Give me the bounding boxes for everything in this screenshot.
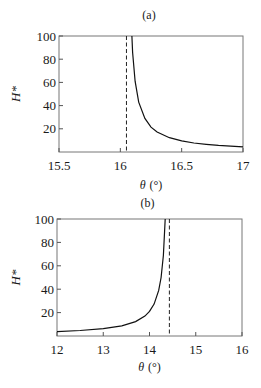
x-axis-label-symbol: θ — [140, 178, 146, 192]
x-axis-label-unit: (°) — [150, 178, 163, 192]
y-tick-label: 20 — [43, 121, 56, 136]
x-tick-label: 12 — [51, 342, 64, 357]
x-tick-label: 17 — [237, 158, 251, 173]
chart-panel-a: (a)2040608010015.51616.517H*θ(°) — [8, 8, 250, 192]
x-tick-label: 16 — [236, 342, 250, 357]
y-axis-label: H* — [8, 86, 23, 103]
y-tick-label: 60 — [41, 258, 54, 273]
panel-label: (a) — [142, 8, 155, 22]
y-tick-label: 40 — [41, 282, 54, 297]
x-tick-label: 14 — [143, 342, 157, 357]
chart-panel-b: (b)204060801001213141516H*θ(°) — [8, 196, 249, 374]
x-tick-label: 13 — [97, 342, 110, 357]
x-tick-label: 15 — [189, 342, 202, 357]
x-axis-label: θ(°) — [140, 178, 163, 192]
plot-frame — [59, 36, 243, 152]
y-tick-label: 100 — [37, 29, 57, 44]
x-tick-label: 15.5 — [48, 158, 71, 173]
y-axis-label: H* — [8, 269, 23, 286]
series-line-h-star — [57, 219, 165, 332]
y-tick-label: 40 — [43, 98, 56, 113]
plot-frame — [57, 219, 242, 336]
panel-label: (b) — [141, 196, 155, 210]
series-line-h-star — [132, 36, 243, 147]
x-axis-label-symbol: θ — [138, 360, 144, 374]
x-axis-label-unit: (°) — [148, 360, 161, 374]
y-tick-label: 100 — [35, 212, 55, 227]
x-axis-label: θ(°) — [138, 360, 161, 374]
y-tick-label: 60 — [43, 75, 56, 90]
y-tick-label: 80 — [43, 52, 56, 67]
y-tick-label: 20 — [41, 305, 54, 320]
x-tick-label: 16.5 — [170, 158, 193, 173]
y-tick-label: 80 — [41, 235, 54, 250]
x-tick-label: 16 — [114, 158, 128, 173]
chart-figure: (a)2040608010015.51616.517H*θ(°)(b)20406… — [0, 0, 261, 388]
